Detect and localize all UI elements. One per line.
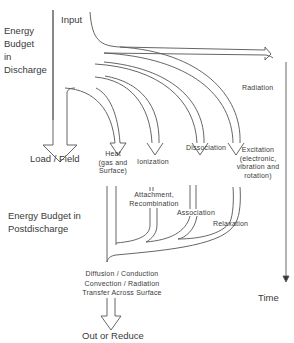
node-excitation: Excitation (electronic, vibration and ro… (229, 146, 287, 180)
node-load-field: Load / Field (30, 153, 80, 165)
node-transfer: Diffusion / Conduction Convection / Radi… (66, 269, 178, 298)
flow-ionization (95, 77, 152, 143)
node-association: Association (177, 209, 215, 218)
node-out-or-reduce: Out or Reduce (82, 330, 144, 342)
node-ionization: Ionization (137, 158, 169, 167)
flow-out (101, 298, 121, 330)
node-relaxation: Relaxation (213, 220, 248, 229)
time-arrow-head (283, 276, 289, 282)
section-label-discharge: Energy Budget in Discharge (4, 24, 47, 76)
axis-label-time: Time (258, 292, 279, 304)
section-label-postdischarge: Energy Budget in Postdischarge (8, 209, 81, 235)
node-attachment-recombination: Attachment, Recombination (125, 191, 183, 208)
node-dissociation: Dissociation (186, 144, 226, 153)
flow-input-radiation (90, 12, 265, 50)
node-heat: Heat (gas and Surface) (93, 150, 133, 176)
node-radiation: Radiation (242, 84, 273, 93)
node-input: Input (61, 14, 82, 26)
flow-load-field (43, 88, 77, 162)
flow-excitation (104, 53, 233, 143)
flow-heat (65, 88, 115, 143)
